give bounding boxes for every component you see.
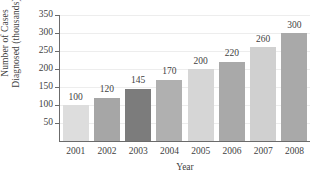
bar[interactable] [250, 47, 276, 141]
bar-slot[interactable]: 145 [123, 15, 154, 141]
x-axis-tick-label: 2005 [185, 146, 216, 156]
y-axis-tickmark [55, 15, 59, 16]
bar-slot[interactable]: 120 [91, 15, 122, 141]
bar[interactable] [281, 33, 307, 141]
y-axis-title: Number of Cases Diagnosed (thousands) [0, 0, 26, 102]
bar-slot[interactable]: 170 [154, 15, 185, 141]
bar-slot[interactable]: 100 [60, 15, 91, 141]
x-axis-title: Year [60, 162, 310, 172]
y-axis-tick-label: 150 [39, 82, 53, 92]
y-axis-tickmark [55, 123, 59, 124]
bar[interactable] [188, 69, 214, 141]
bar-value-label: 170 [162, 67, 176, 77]
y-axis-title-line-1: Number of Cases [0, 9, 11, 76]
x-axis-tick-label: 2008 [279, 146, 310, 156]
x-axis-tick-labels: 20012002200320042005200620072008 [60, 146, 310, 156]
bar-value-label: 300 [287, 21, 301, 31]
y-axis-tick-label: 250 [39, 46, 53, 56]
bar[interactable] [125, 89, 151, 141]
x-axis-tick-label: 2003 [123, 146, 154, 156]
y-axis-tickmark [55, 87, 59, 88]
y-axis-tickmark [55, 105, 59, 106]
y-axis-tickmark [55, 51, 59, 52]
bar-slot[interactable]: 200 [185, 15, 216, 141]
plot-area: 50100150200250300350 1001201451702002202… [59, 15, 310, 142]
bar-slot[interactable]: 260 [248, 15, 279, 141]
y-axis-tick-label: 300 [39, 28, 53, 38]
bar-chart: Number of Cases Diagnosed (thousands) 50… [0, 0, 315, 181]
x-axis-tick-label: 2006 [216, 146, 247, 156]
y-axis-tickmark [55, 69, 59, 70]
x-axis-tick-label: 2001 [60, 146, 91, 156]
bar[interactable] [94, 98, 120, 141]
x-axis-line [59, 141, 310, 142]
y-axis-tick-label: 200 [39, 64, 53, 74]
bar-value-label: 220 [225, 49, 239, 59]
bar[interactable] [63, 105, 89, 141]
bar-value-label: 100 [69, 93, 83, 103]
bar-slot[interactable]: 300 [279, 15, 310, 141]
x-axis-tick-label: 2004 [154, 146, 185, 156]
y-axis-title-line-2: Diagnosed (thousands) [11, 0, 22, 88]
x-axis-tick-label: 2002 [91, 146, 122, 156]
y-axis-tick-label: 50 [44, 118, 54, 128]
bar-slot[interactable]: 220 [216, 15, 247, 141]
x-axis-tick-label: 2007 [248, 146, 279, 156]
bar-value-label: 200 [194, 57, 208, 67]
bar-series: 100120145170200220260300 [60, 15, 310, 141]
bar[interactable] [156, 80, 182, 141]
y-axis-tick-label: 350 [39, 10, 53, 20]
bar-value-label: 120 [100, 85, 114, 95]
bar-value-label: 145 [131, 76, 145, 86]
y-axis-tickmark [55, 33, 59, 34]
bar[interactable] [219, 62, 245, 141]
y-axis-tick-label: 100 [39, 100, 53, 110]
bar-value-label: 260 [256, 35, 270, 45]
